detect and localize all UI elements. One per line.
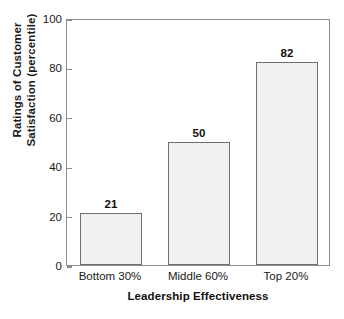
y-axis-tick-mark (67, 118, 72, 119)
y-axis-tick-label: 40 (36, 161, 62, 173)
y-axis-tick-label: 80 (36, 62, 62, 74)
y-axis-tick-label: 20 (36, 211, 62, 223)
y-axis-tick-labels: 020406080100 (34, 0, 62, 319)
y-axis-tick-label: 60 (36, 112, 62, 124)
bar-value-label: 21 (105, 198, 118, 210)
y-axis-tick-label: 0 (36, 260, 62, 272)
x-axis-tick-label: Middle 60% (168, 270, 228, 282)
bar-chart-figure: Ratings of Customer Satisfaction (percen… (0, 0, 344, 319)
bar: 21 (80, 213, 142, 265)
y-axis-tick-mark (67, 168, 72, 169)
bar-value-label: 50 (193, 127, 206, 139)
x-axis-tick-labels: Bottom 30%Middle 60%Top 20% (66, 270, 330, 288)
y-axis-tick-mark (67, 69, 72, 70)
bar: 50 (168, 142, 230, 266)
x-axis-title: Leadership Effectiveness (66, 290, 330, 302)
y-axis-tick-mark (67, 266, 72, 267)
bar-value-label: 82 (281, 47, 294, 59)
y-axis-tick-label: 100 (36, 13, 62, 25)
y-axis-title-line-1: Ratings of Customer (10, 23, 24, 138)
y-axis-tick-mark (67, 19, 72, 20)
plot-area: 215082 (66, 19, 330, 266)
bar: 82 (256, 62, 318, 265)
x-axis-tick-label: Top 20% (264, 270, 309, 282)
y-axis-tick-mark (67, 217, 72, 218)
x-axis-tick-label: Bottom 30% (79, 270, 142, 282)
